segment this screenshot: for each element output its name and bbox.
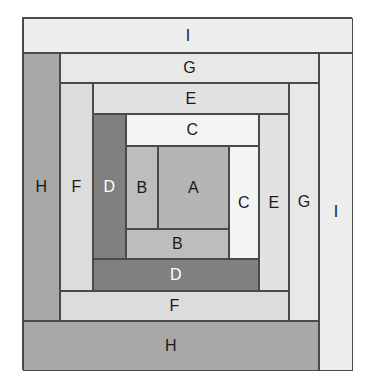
region-label: F bbox=[169, 298, 179, 314]
region-g-top: G bbox=[60, 53, 319, 83]
region-label: G bbox=[298, 194, 311, 210]
region-label: E bbox=[269, 195, 280, 211]
region-label: I bbox=[186, 28, 191, 44]
region-label: D bbox=[170, 267, 182, 283]
region-c-top: C bbox=[126, 114, 259, 146]
region-f-left: F bbox=[60, 83, 93, 291]
region-label: C bbox=[187, 122, 199, 138]
region-c-right: C bbox=[229, 146, 259, 259]
region-label: H bbox=[165, 338, 177, 354]
region-a-center: A bbox=[158, 146, 229, 229]
region-label: A bbox=[188, 180, 199, 196]
region-i-right: I bbox=[319, 53, 353, 371]
region-label: F bbox=[71, 179, 81, 195]
region-e-right: E bbox=[259, 114, 289, 291]
region-label: H bbox=[36, 179, 48, 195]
region-h-left: H bbox=[23, 53, 60, 321]
region-f-bottom: F bbox=[60, 291, 289, 321]
region-i-top: I bbox=[23, 18, 353, 53]
region-g-right: G bbox=[289, 83, 319, 321]
region-label: C bbox=[238, 195, 250, 211]
region-label: B bbox=[137, 180, 148, 196]
region-label: B bbox=[172, 236, 183, 252]
region-h-bottom: H bbox=[23, 321, 319, 371]
figure-root: IIHHGGFFEEDDCCBBA bbox=[0, 0, 374, 386]
region-b-bottom: B bbox=[126, 229, 229, 259]
region-label: I bbox=[334, 204, 339, 220]
region-label: E bbox=[186, 91, 197, 107]
region-b-left: B bbox=[126, 146, 158, 229]
region-d-bottom: D bbox=[93, 259, 259, 291]
region-label: G bbox=[183, 60, 196, 76]
region-d-left: D bbox=[93, 114, 126, 259]
region-e-top: E bbox=[93, 83, 289, 114]
diagram-plate: IIHHGGFFEEDDCCBBA bbox=[22, 17, 352, 370]
region-label: D bbox=[104, 179, 116, 195]
